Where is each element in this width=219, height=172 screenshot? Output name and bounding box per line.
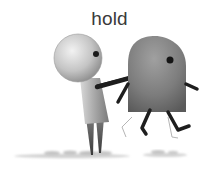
right-leg — [96, 118, 104, 153]
dome-eye — [167, 57, 174, 64]
dome-left-arm — [118, 84, 128, 102]
head — [54, 34, 102, 82]
dome-figure — [118, 36, 197, 138]
dome-right-leg — [168, 112, 189, 130]
dome-left-leg — [142, 110, 150, 134]
eye — [93, 51, 99, 57]
dome-right-arm — [186, 84, 197, 89]
shadow-leg-left — [122, 117, 132, 137]
hold-illustration — [0, 0, 219, 172]
dome-body — [128, 36, 186, 112]
